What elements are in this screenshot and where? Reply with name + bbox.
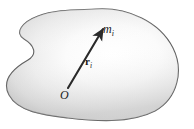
mass-label-subscript: i: [112, 29, 114, 38]
vector-label-subscript: i: [90, 61, 92, 70]
mass-label-base: m: [103, 22, 112, 36]
origin-label: O: [60, 89, 69, 101]
origin-label-base: O: [60, 88, 69, 102]
vector-label: ri: [85, 56, 92, 70]
mass-label: mi: [103, 23, 114, 39]
physics-figure: mi ri O: [0, 0, 194, 129]
figure-canvas: [0, 0, 194, 129]
blob-sheen: [7, 9, 179, 121]
rigid-body-blob: [7, 9, 179, 121]
